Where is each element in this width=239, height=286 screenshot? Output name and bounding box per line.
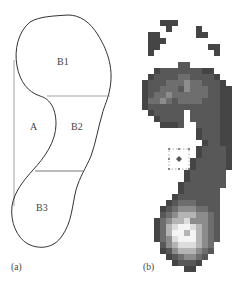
panel-label-a: (a) bbox=[11, 263, 22, 273]
panel-label-b: (b) bbox=[143, 263, 154, 273]
region-label-a: A bbox=[30, 122, 37, 132]
region-label-b3: B3 bbox=[36, 203, 48, 213]
dotted-selection-marker bbox=[167, 147, 191, 173]
region-label-b2: B2 bbox=[71, 122, 83, 132]
figure-b-pressure-map: (b) bbox=[120, 0, 239, 286]
figure-a-foot-regions: B1 A B2 B3 (a) bbox=[0, 0, 120, 286]
pressure-cell bbox=[226, 266, 232, 272]
pressure-grid bbox=[142, 14, 232, 272]
foot-contour bbox=[12, 15, 111, 247]
foot-outline-diagram bbox=[0, 0, 120, 286]
region-label-b1: B1 bbox=[57, 57, 69, 67]
